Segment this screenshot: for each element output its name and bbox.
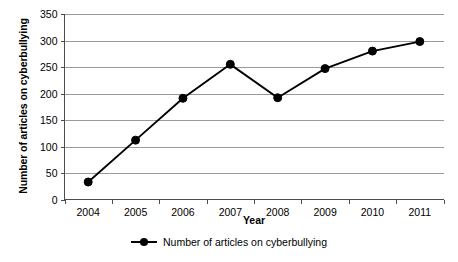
y-tick-label: 250 [40, 61, 58, 73]
data-point-marker [226, 60, 234, 68]
y-tick-labels-group: 050100150200250300350 [40, 8, 58, 206]
series-markers-group [84, 38, 424, 186]
line-chart: Number of articles on cyberbullying 0501… [0, 0, 458, 262]
data-point-marker [132, 136, 140, 144]
y-tick-label: 100 [40, 141, 58, 153]
y-tick-label: 300 [40, 35, 58, 47]
chart-legend: Number of articles on cyberbullying [0, 236, 458, 248]
legend-marker-icon [131, 237, 157, 247]
gridlines-group [61, 15, 444, 201]
y-tick-label: 350 [40, 8, 58, 20]
legend-label: Number of articles on cyberbullying [163, 236, 327, 248]
data-point-marker [84, 178, 92, 186]
data-point-marker [321, 65, 329, 73]
x-axis-title: Year [64, 214, 444, 226]
data-point-marker [274, 94, 282, 102]
y-tick-label: 150 [40, 114, 58, 126]
data-point-marker [368, 47, 376, 55]
y-tick-label: 200 [40, 88, 58, 100]
x-tick-marks-group [66, 200, 445, 204]
y-tick-label: 0 [52, 194, 58, 206]
series-line-number-of-articles [88, 42, 420, 182]
y-tick-label: 50 [46, 167, 58, 179]
data-point-marker [416, 38, 424, 46]
data-point-marker [179, 94, 187, 102]
